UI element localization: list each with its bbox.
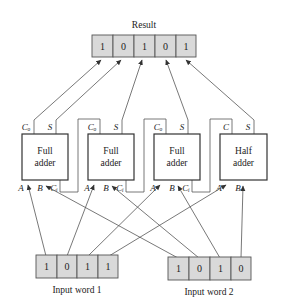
- a-port-label: A: [149, 183, 156, 193]
- input-bit: 1: [176, 263, 181, 274]
- sum-port-label: S: [180, 122, 185, 132]
- input-wire: [67, 185, 94, 256]
- input-bit: 1: [44, 261, 49, 272]
- a-port-label: A: [17, 183, 24, 193]
- sum-port-label: S: [246, 122, 251, 132]
- input-bit: 0: [239, 263, 244, 274]
- carry-in-port-label: Cᵢ: [50, 183, 58, 193]
- sum-wire: [186, 60, 254, 134]
- input-word-1-label: Input word 1: [52, 285, 101, 295]
- adder-label: Full: [103, 146, 119, 156]
- input-bit: 1: [85, 261, 90, 272]
- adder-label: adder: [100, 158, 122, 168]
- adder-label: adder: [166, 158, 188, 168]
- b-port-label: B: [169, 183, 175, 193]
- input-wire: [28, 185, 46, 256]
- sum-wire: [166, 60, 188, 134]
- input-wire: [112, 186, 199, 258]
- input-wire: [109, 185, 226, 256]
- carry-out-port-label: Cₒ: [154, 122, 163, 132]
- input-bit: 1: [106, 261, 111, 272]
- result-title: Result: [132, 20, 157, 30]
- input-word-2-label: Input word 2: [184, 287, 233, 297]
- input-wire: [178, 186, 220, 258]
- adder-label: Half: [235, 146, 253, 156]
- adder-label: adder: [34, 158, 56, 168]
- sum-port-label: S: [48, 122, 53, 132]
- input-bit: 0: [65, 261, 70, 272]
- input-wires: [28, 185, 243, 258]
- input-bit: 0: [197, 263, 202, 274]
- input-bit: 1: [218, 263, 223, 274]
- result-bit: 1: [184, 41, 189, 52]
- sum-port-label: S: [114, 122, 119, 132]
- carry-out-port-label: C: [223, 122, 230, 132]
- carry-in-port-label: Cᵢ: [182, 183, 190, 193]
- b-port-label: B: [37, 183, 43, 193]
- input-wire: [241, 186, 243, 258]
- result-bit: 1: [142, 41, 147, 52]
- input-wire: [46, 186, 178, 258]
- result-register: Result 1 0 1 0 1: [92, 20, 196, 57]
- b-port-label: B: [235, 183, 241, 193]
- half-adder: Half adder C S A B: [215, 122, 267, 193]
- adder-circuit-diagram: Result 1 0 1 0 1 Full adder: [0, 0, 284, 307]
- carry-out-port-label: Cₒ: [88, 122, 97, 132]
- input-word-2: 1 0 1 0 Input word 2: [168, 257, 251, 297]
- adder-label: adder: [233, 158, 255, 168]
- result-bit: 0: [163, 41, 168, 52]
- sum-wire: [122, 60, 142, 134]
- carry-in-port-label: Cᵢ: [116, 183, 124, 193]
- carry-chain-wires: [60, 119, 232, 192]
- adder-label: Full: [37, 146, 53, 156]
- input-word-1: 1 0 1 1 Input word 1: [36, 255, 118, 295]
- result-bit: 0: [121, 41, 126, 52]
- adder-label: Full: [169, 146, 185, 156]
- carry-out-port-label: Cₒ: [22, 122, 31, 132]
- result-bit: 1: [100, 41, 105, 52]
- b-port-label: B: [103, 183, 109, 193]
- a-port-label: A: [83, 183, 90, 193]
